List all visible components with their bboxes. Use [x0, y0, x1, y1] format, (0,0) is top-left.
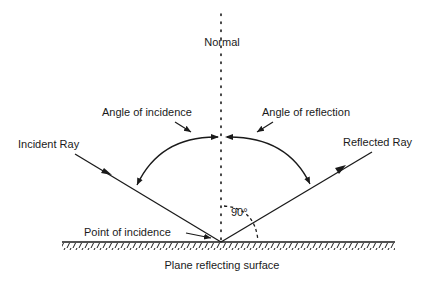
- reflected-ray-label: Reflected Ray: [343, 136, 413, 148]
- reflected-ray: [221, 152, 372, 242]
- normal-label: Normal: [204, 36, 239, 48]
- incident-ray-arrow-icon: [101, 168, 112, 175]
- reflecting-surface: [62, 242, 395, 250]
- incident-ray-label: Incident Ray: [18, 138, 80, 150]
- point-of-incidence-label: Point of incidence: [84, 226, 171, 238]
- angle-of-reflection-arc: [227, 137, 310, 184]
- angle-of-incidence-pointer: [175, 122, 191, 132]
- angle-of-incidence-arc-arrow-icon: [211, 134, 219, 140]
- angle-of-incidence-arc: [137, 137, 218, 185]
- angle-of-reflection-arc-arrow-icon: [225, 134, 233, 140]
- surface-label: Plane reflecting surface: [165, 259, 280, 271]
- right-angle-label: 90°: [231, 206, 248, 218]
- angle-of-reflection-pointer: [257, 122, 273, 132]
- angle-of-reflection-label: Angle of reflection: [262, 106, 350, 118]
- angle-of-incidence-label: Angle of incidence: [102, 106, 192, 118]
- reflection-diagram: Normal Angle of incidence Angle of refle…: [0, 0, 433, 288]
